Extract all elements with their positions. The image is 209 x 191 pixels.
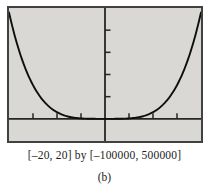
plot-area (9, 8, 201, 141)
figure: [–20, 20] by [–100000, 500000] (b) (0, 0, 209, 191)
calculator-screen (7, 6, 203, 143)
figure-sublabel: (b) (0, 171, 209, 183)
window-caption: [–20, 20] by [–100000, 500000] (0, 149, 209, 161)
